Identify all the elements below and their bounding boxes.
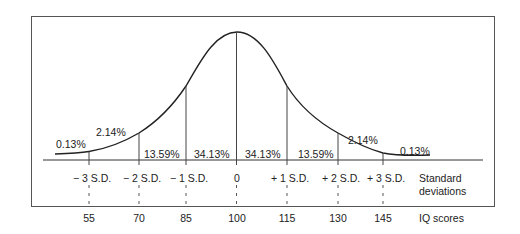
band-label-pos1-pos2: 13.59% xyxy=(298,148,334,160)
dashed-connectors xyxy=(89,185,383,206)
sd-tick-neg3: − 3 S.D. xyxy=(73,172,111,184)
sd-tick-0: 0 xyxy=(234,172,240,184)
sd-tick-pos3: + 3 S.D. xyxy=(367,172,405,184)
normal-curve-chart xyxy=(0,0,520,234)
iq-tick-55: 55 xyxy=(83,212,95,224)
sd-divider-lines xyxy=(89,32,383,165)
iq-tick-130: 130 xyxy=(329,212,347,224)
iq-tick-115: 115 xyxy=(279,212,296,224)
band-label-neg3-neg2: 2.14% xyxy=(96,126,126,138)
iq-tick-100: 100 xyxy=(228,212,246,224)
sd-tick-neg1: − 1 S.D. xyxy=(170,172,208,184)
iq-tick-70: 70 xyxy=(133,212,145,224)
band-label-right-tail: 0.13% xyxy=(400,145,430,157)
band-label-neg2-neg1: 13.59% xyxy=(144,148,180,160)
iq-tick-85: 85 xyxy=(180,212,192,224)
sd-axis-title-line1: Standard xyxy=(419,172,462,184)
sd-tick-pos2: + 2 S.D. xyxy=(322,172,360,184)
band-label-left-tail: 0.13% xyxy=(56,138,86,150)
sd-tick-pos1: + 1 S.D. xyxy=(271,172,309,184)
iq-tick-145: 145 xyxy=(374,212,392,224)
sd-tick-neg2: − 2 S.D. xyxy=(123,172,161,184)
band-label-neg1-0: 34.13% xyxy=(194,148,230,160)
band-label-pos2-pos3: 2.14% xyxy=(348,134,378,146)
band-label-0-pos1: 34.13% xyxy=(245,148,281,160)
sd-axis-title-line2: deviations xyxy=(419,185,466,197)
iq-axis-title: IQ scores xyxy=(419,212,464,224)
